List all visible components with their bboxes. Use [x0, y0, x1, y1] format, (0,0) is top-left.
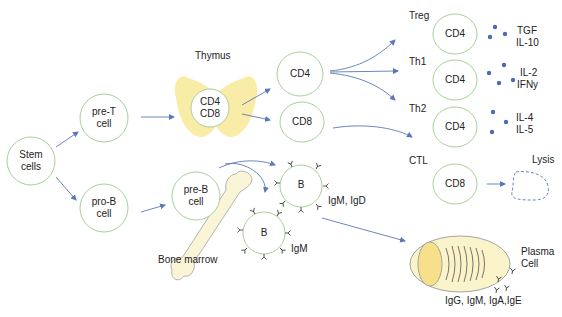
pre-b-line1: pre-B [172, 184, 220, 196]
cd8-label: CD8 [280, 116, 324, 128]
stem-cells-label: Stem cells [7, 149, 55, 173]
lysed-cell-icon [512, 172, 549, 200]
ctl-cd8-label: CD8 [433, 178, 477, 190]
il5-label: IL-5 [516, 124, 533, 136]
ctl-label: CTL [409, 155, 428, 167]
tgf-label: TGF [517, 25, 537, 37]
pre-t-line1: pre-T [80, 106, 128, 118]
pre-t-line2: cell [80, 118, 128, 130]
stem-line2: cells [7, 161, 55, 173]
b-cell-upper-label: B [291, 179, 311, 191]
il2-label: IL-2 [520, 67, 537, 79]
pre-b-line2: cell [172, 196, 220, 208]
plasma-label-line1: Plasma [521, 246, 554, 258]
thymus-cd8: CD8 [191, 108, 229, 120]
plasma-ig-label: IgG, IgM, IgA,IgE [445, 295, 522, 307]
treg-cd4-label: CD4 [433, 28, 477, 40]
plasma-label-line2: Cell [521, 258, 538, 270]
cd4-label: CD4 [277, 68, 323, 80]
b-lower-ig-label: IgM [291, 243, 308, 255]
b-upper-ig-label: IgM, IgD [328, 195, 366, 207]
th1-label: Th1 [409, 56, 426, 68]
pro-b-line1: pro-B [80, 196, 128, 208]
stem-line1: Stem [7, 149, 55, 161]
th1-cd4-label: CD4 [433, 74, 477, 86]
plasma-cell-icon [410, 236, 510, 292]
thymus-cell-label: CD4 CD8 [191, 96, 229, 120]
ifny-label: IFNy [517, 79, 538, 91]
pro-b-line2: cell [80, 208, 128, 220]
thymus-label: Thymus [195, 50, 231, 62]
pre-b-cell-label: pre-B cell [172, 184, 220, 208]
pre-t-cell-label: pre-T cell [80, 106, 128, 130]
il4-label: IL-4 [516, 112, 533, 124]
treg-label: Treg [409, 10, 429, 22]
bone-marrow-label: Bone marrow [158, 254, 217, 266]
lysis-label: Lysis [532, 154, 554, 166]
cytokine-dots [487, 25, 515, 134]
th2-cd4-label: CD4 [433, 121, 477, 133]
th2-label: Th2 [409, 103, 426, 115]
pro-b-cell-label: pro-B cell [80, 196, 128, 220]
thymus-cd4: CD4 [191, 96, 229, 108]
diagram-canvas [0, 0, 562, 317]
il10-label: IL-10 [516, 37, 539, 49]
b-cell-lower-label: B [254, 227, 274, 239]
